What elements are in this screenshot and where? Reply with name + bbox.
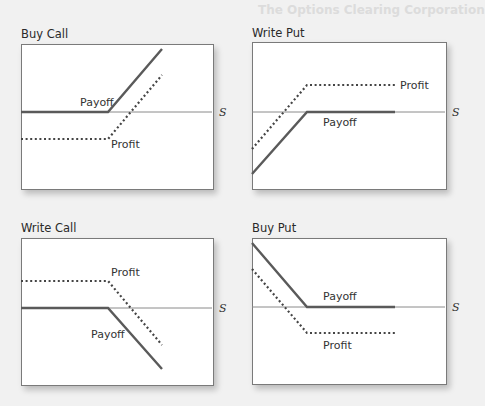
profit-label: Profit <box>111 138 140 151</box>
profit-label: Profit <box>400 79 429 92</box>
chart-buy-put: Payoff Profit S <box>252 243 460 352</box>
chart-write-call: Payoff Profit S <box>21 266 227 369</box>
payoff-label: Payoff <box>91 328 125 341</box>
s-axis-label: S <box>219 106 227 119</box>
payoff-label: Payoff <box>80 96 114 109</box>
chart-buy-call: Payoff Profit S <box>21 49 227 151</box>
payoff-label: Payoff <box>323 116 357 129</box>
profit-label: Profit <box>323 339 352 352</box>
profit-label: Profit <box>111 266 140 279</box>
s-axis-label: S <box>452 301 460 314</box>
s-axis-label: S <box>452 106 460 119</box>
payoff-label: Payoff <box>323 290 357 303</box>
chart-write-put: Payoff Profit S <box>252 79 460 174</box>
s-axis-label: S <box>219 302 227 315</box>
